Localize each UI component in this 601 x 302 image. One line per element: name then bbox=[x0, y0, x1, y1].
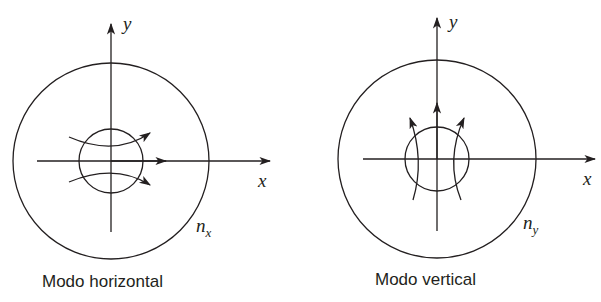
horizontal-mode-diagram: y x nx Modo horizontal bbox=[13, 13, 270, 291]
caption-horizontal: Modo horizontal bbox=[42, 272, 163, 291]
mode-diagrams: y x nx Modo horizontal y x ny Modo verti… bbox=[0, 0, 601, 302]
y-axis-label: y bbox=[121, 13, 132, 34]
index-label: nx bbox=[196, 215, 212, 240]
caption-vertical: Modo vertical bbox=[375, 270, 476, 289]
y-axis-label: y bbox=[447, 11, 458, 32]
index-label: ny bbox=[523, 212, 539, 237]
x-axis-label: x bbox=[582, 168, 592, 189]
field-line-lower bbox=[69, 173, 150, 185]
vertical-mode-diagram: y x ny Modo vertical bbox=[338, 11, 595, 289]
x-axis-label: x bbox=[257, 170, 267, 191]
